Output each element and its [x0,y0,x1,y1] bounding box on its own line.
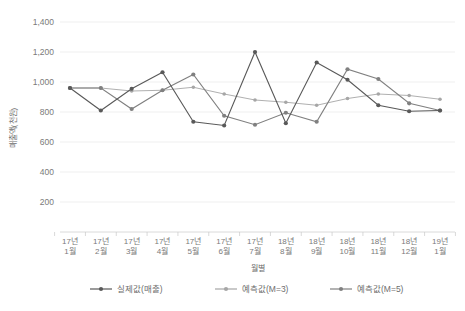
data-point-marker [68,86,72,90]
series-line [70,87,440,105]
x-axis-tick-label-year: 17년 [216,236,232,246]
data-point-marker [284,121,288,125]
x-axis-tick-label-year: 17년 [155,236,171,246]
x-axis-tick-label-year: 17년 [247,236,263,246]
x-axis-tick-label-month: 4월 [157,246,168,256]
data-point-marker [130,107,134,111]
x-axis-tick-label-year: 18년 [370,236,386,246]
x-axis-tick-label-month: 1월 [434,246,445,256]
line-chart: 2004006008001,0001,2001,40017년1월17년2월17년… [0,0,465,311]
data-point-marker [99,108,103,112]
data-point-marker [315,60,319,64]
data-point-marker [346,97,350,101]
x-axis-tick-label-month: 9월 [311,246,322,256]
series-line [70,52,440,126]
data-point-marker [376,103,380,107]
x-axis-tick-label-month: 1월 [64,246,75,256]
chart-canvas: 2004006008001,0001,2001,40017년1월17년2월17년… [0,0,465,311]
data-point-marker [407,109,411,113]
legend-item-label[interactable]: 예측값(M=3) [242,284,289,294]
legend-item-label[interactable]: 예측값(M=5) [357,284,404,294]
data-point-marker [222,123,226,127]
x-axis-tick-label-month: 8월 [280,246,291,256]
legend-marker-dot [224,287,228,291]
x-axis-tick-label-month: 5월 [188,246,199,256]
x-axis-tick-label-month: 12월 [401,246,417,256]
data-point-marker [377,92,381,96]
legend-marker-dot [339,287,343,291]
x-axis-tick-label-year: 18년 [340,236,356,246]
data-point-marker [160,88,164,92]
data-point-marker [130,87,134,91]
data-point-marker [407,101,411,105]
data-point-marker [160,70,164,74]
x-axis-tick-label-year: 18년 [309,236,325,246]
x-axis-tick-label-month: 3월 [126,246,137,256]
x-axis-tick-label-year: 18년 [401,236,417,246]
data-point-marker [253,98,257,102]
x-axis-tick-label-year: 18년 [278,236,294,246]
data-point-marker [253,123,257,127]
data-point-marker [376,77,380,81]
data-point-marker [315,103,319,107]
data-point-marker [192,85,196,89]
x-axis-tick-label-year: 19년 [432,236,448,246]
y-axis-tick-label: 800 [40,107,54,117]
x-axis-tick-label-month: 6월 [218,246,229,256]
x-axis-title: 월별 [251,263,265,273]
data-point-marker [99,86,103,90]
x-axis-tick-label-year: 17년 [62,236,78,246]
y-axis-tick-label: 600 [40,137,54,147]
x-axis-tick-label-year: 17년 [124,236,140,246]
y-axis-tick-label: 400 [40,167,54,177]
x-axis-tick-label-month: 7월 [249,246,260,256]
data-point-marker [284,100,288,104]
y-axis-tick-label: 1,200 [33,47,55,57]
y-axis-tick-label: 200 [40,197,54,207]
data-point-marker [284,111,288,115]
legend-item-label[interactable]: 실제값(매출) [117,284,163,294]
y-axis-title: 매출액(천원) [8,108,18,149]
data-point-marker [345,67,349,71]
x-axis-tick-label-month: 2월 [95,246,106,256]
data-point-marker [253,50,257,54]
x-axis-tick-label-month: 10월 [340,246,356,256]
data-point-marker [222,92,226,96]
data-point-marker [438,108,442,112]
series-line [70,69,440,125]
legend-marker-dot [99,287,103,291]
y-axis-tick-label: 1,000 [33,77,55,87]
x-axis-tick-label-month: 11월 [371,246,386,256]
x-axis-tick-label-year: 17년 [185,236,201,246]
x-axis-tick-label-year: 17년 [93,236,109,246]
data-point-marker [191,72,195,76]
y-axis-tick-label: 1,400 [33,17,55,27]
data-point-marker [345,78,349,82]
data-point-marker [407,94,411,98]
data-point-marker [191,120,195,124]
data-point-marker [222,114,226,118]
data-point-marker [315,120,319,124]
data-point-marker [438,97,442,101]
